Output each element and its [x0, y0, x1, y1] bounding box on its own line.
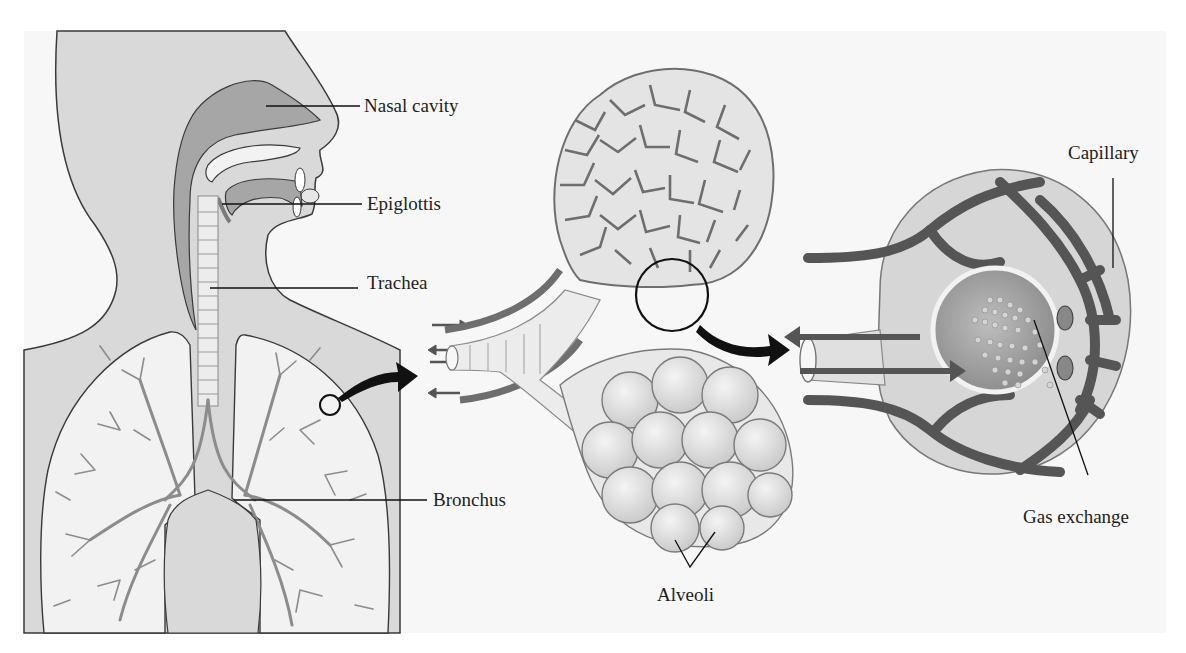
- label-epiglottis: Epiglottis: [367, 194, 441, 213]
- label-nasal-cavity: Nasal cavity: [364, 96, 458, 115]
- heart-space: [164, 490, 261, 633]
- label-bronchus: Bronchus: [433, 490, 506, 509]
- alveolus-closeup: [784, 170, 1131, 474]
- label-capillary: Capillary: [1068, 143, 1139, 162]
- alveolar-cluster-lower: [560, 349, 793, 552]
- alveolar-cluster-upper: [554, 69, 773, 287]
- diagram-artwork: [0, 0, 1186, 653]
- trachea-tube: [198, 196, 218, 406]
- label-gas-exchange: Gas exchange: [1023, 507, 1129, 526]
- label-alveoli: Alveoli: [657, 585, 714, 604]
- label-trachea: Trachea: [367, 273, 428, 292]
